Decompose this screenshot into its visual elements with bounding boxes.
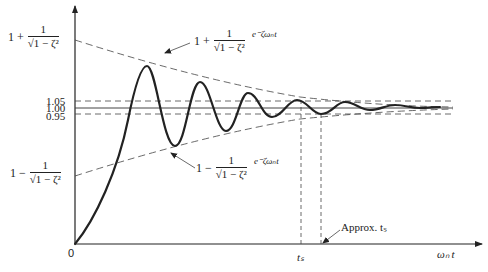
lower-bound-fraction: 1 √1 − ζ² (30, 160, 61, 185)
lower-envelope-leader (171, 153, 195, 168)
upper-bound-fraction: 1 √1 − ζ² (28, 24, 59, 49)
upper-envelope-annotation: 1 + 1 √1 − ζ² e⁻ζωₙt (194, 28, 277, 53)
ts-label: tₛ (297, 252, 304, 263)
lower-envelope-annotation: 1 − 1 √1 − ζ² e⁻ζωₙt (196, 155, 279, 180)
tick-0-95: 0.95 (46, 111, 65, 122)
approx-ts-label: Approx. tₛ (341, 222, 387, 233)
lower-bound-label: 1 − 1 √1 − ζ² (10, 160, 61, 185)
origin-label: 0 (68, 248, 74, 259)
x-axis-label: ωₙ t (437, 249, 455, 260)
upper-bound-label: 1 + 1 √1 − ζ² (8, 24, 59, 49)
upper-envelope-leader (165, 43, 190, 53)
approx-ts-leader (323, 230, 340, 243)
